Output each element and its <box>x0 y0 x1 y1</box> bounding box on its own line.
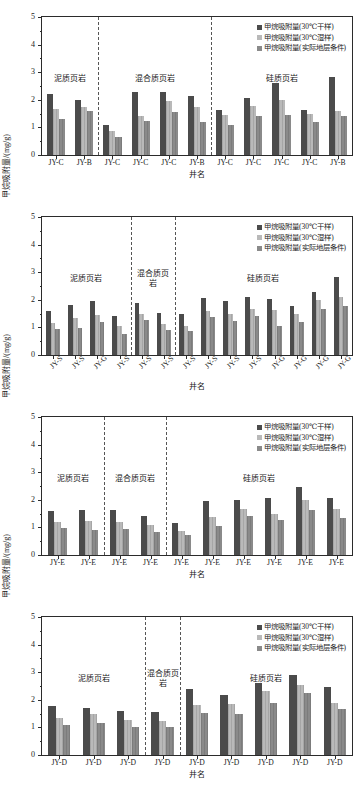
bar <box>299 322 304 355</box>
legend-item: 甲烷吸附量(30℃干样) <box>257 622 346 633</box>
bar <box>338 709 345 755</box>
bar <box>55 329 60 355</box>
legend-swatch-icon <box>257 46 262 51</box>
bar <box>289 675 296 755</box>
y-axis-tick-labels: 012345 <box>0 616 39 756</box>
bar-group <box>112 217 126 355</box>
bar <box>123 529 130 555</box>
bar <box>85 521 92 555</box>
bar <box>321 309 326 355</box>
bar-group <box>141 417 161 555</box>
bar <box>296 487 303 555</box>
x-tick-label: JY-D <box>258 758 274 768</box>
chart-legend: 甲烷吸附量(30℃干样)甲烷吸附量(30℃湿样)甲烷吸附量(实际地层条件) <box>255 21 348 55</box>
bar <box>61 528 68 555</box>
y-tick-label: 0 <box>31 351 35 359</box>
bar <box>255 683 262 755</box>
lithology-divider <box>166 417 167 555</box>
bar <box>235 714 242 755</box>
legend-swatch-icon <box>257 25 262 30</box>
bar-group <box>46 217 60 355</box>
legend-swatch-icon <box>257 446 262 451</box>
y-tick-label: 4 <box>31 241 35 249</box>
bar <box>255 316 260 355</box>
chart-legend: 甲烷吸附量(30℃干样)甲烷吸附量(30℃湿样)甲烷吸附量(实际地层条件) <box>255 421 348 455</box>
x-axis-title: 井名 <box>41 382 353 392</box>
bar <box>48 511 55 555</box>
y-tick-label: 0 <box>31 751 35 759</box>
bar <box>185 535 192 555</box>
y-tick-label: 5 <box>31 413 35 421</box>
x-tick-label: JY-B <box>189 158 204 168</box>
lithology-band-label: 混合质页岩 <box>120 74 190 84</box>
x-tick-label: JY-S <box>114 354 131 371</box>
legend-label: 甲烷吸附量(30℃湿样) <box>264 633 334 644</box>
legend-label: 甲烷吸附量(30℃湿样) <box>264 33 334 44</box>
bar <box>201 713 208 755</box>
figure-page: 甲烷吸附量/(mg/g)012345泥质页岩混合质页岩硅质页岩甲烷吸附量(30℃… <box>0 0 363 801</box>
legend-swatch-icon <box>257 425 262 430</box>
legend-item: 甲烷吸附量(实际地层条件) <box>257 643 346 654</box>
bar <box>265 498 272 555</box>
bar-group <box>216 17 234 155</box>
x-tick-label: JY-C <box>48 158 63 168</box>
chart-stack: 甲烷吸附量/(mg/g)012345泥质页岩混合质页岩硅质页岩甲烷吸附量(30℃… <box>0 0 363 801</box>
lithology-band-label: 泥质页岩 <box>59 674 129 684</box>
bar-group <box>234 417 254 555</box>
bar <box>343 306 348 355</box>
bar <box>341 116 347 155</box>
bar-group <box>201 217 215 355</box>
plot-area: 泥质页岩混合质页岩硅质页岩甲烷吸附量(30℃干样)甲烷吸附量(30℃湿样)甲烷吸… <box>41 216 353 356</box>
x-tick-label: JY-D <box>293 758 309 768</box>
lithology-divider <box>104 417 105 555</box>
legend-item: 甲烷吸附量(30℃湿样) <box>257 633 346 644</box>
bar <box>233 321 238 355</box>
x-tick-label: JY-E <box>143 558 158 568</box>
bar <box>309 510 316 555</box>
chart-panel-1: 甲烷吸附量/(mg/g)012345泥质页岩混合质页岩硅质页岩甲烷吸附量(30℃… <box>0 0 363 200</box>
bar-group <box>179 217 193 355</box>
bar <box>117 711 124 755</box>
bar <box>159 721 166 755</box>
bar <box>210 317 215 355</box>
bar-group <box>47 17 65 155</box>
plot-area: 泥质页岩混合质页岩硅质页岩甲烷吸附量(30℃干样)甲烷吸附量(30℃湿样)甲烷吸… <box>41 616 353 756</box>
plot-area: 泥质页岩混合质页岩硅质页岩甲烷吸附量(30℃干样)甲烷吸附量(30℃湿样)甲烷吸… <box>41 16 353 156</box>
legend-swatch-icon <box>257 635 262 640</box>
bar <box>270 703 277 755</box>
lithology-divider <box>98 17 99 155</box>
bar <box>220 695 227 755</box>
y-tick-label: 5 <box>31 613 35 621</box>
bar-group <box>172 417 192 555</box>
lithology-divider <box>131 217 132 355</box>
bar <box>216 526 223 555</box>
bar <box>59 119 65 155</box>
y-tick-label: 5 <box>31 213 35 221</box>
bar <box>247 516 254 555</box>
bar-group <box>203 417 223 555</box>
bar <box>203 501 210 555</box>
legend-item: 甲烷吸附量(30℃湿样) <box>257 33 346 44</box>
x-tick-label: JY-E <box>236 558 251 568</box>
y-tick-mark <box>38 355 42 356</box>
lithology-divider <box>175 217 176 355</box>
bar <box>97 723 104 755</box>
lithology-divider <box>180 617 181 755</box>
x-tick-label: JY-E <box>112 558 127 568</box>
x-tick-label: JY-S <box>203 354 220 371</box>
chart-panel-3: 甲烷吸附量/(mg/g)012345泥质页岩混合质页岩硅质页岩甲烷吸附量(30℃… <box>0 400 363 600</box>
lithology-band-label: 泥质页岩 <box>35 74 105 84</box>
x-tick-label: JY-E <box>205 558 220 568</box>
x-tick-label: JY-D <box>120 758 136 768</box>
bar <box>83 708 90 755</box>
y-tick-mark <box>38 755 42 756</box>
bar <box>151 712 158 755</box>
y-tick-label: 4 <box>31 41 35 49</box>
bar-group <box>132 17 150 155</box>
bar-group <box>48 617 70 755</box>
x-tick-label: JY-G <box>313 353 331 371</box>
bar <box>285 115 291 155</box>
bar <box>78 328 83 355</box>
legend-item: 甲烷吸附量(实际地层条件) <box>257 443 346 454</box>
bar <box>166 727 173 755</box>
